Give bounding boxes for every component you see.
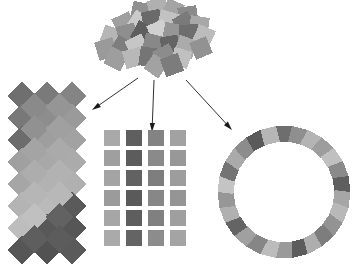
grid-tile (126, 130, 142, 146)
figure-root (0, 0, 360, 274)
grid-tile (148, 230, 164, 246)
grid-tile (148, 150, 164, 166)
grid-tile (104, 130, 120, 146)
grid-tile (170, 150, 186, 166)
grid-tile (126, 150, 142, 166)
grid-tile (126, 230, 142, 246)
grid-tile (126, 190, 142, 206)
grid-tile (104, 230, 120, 246)
grid-tile (104, 210, 120, 226)
grid-tile (170, 230, 186, 246)
diagram-canvas (0, 0, 360, 274)
grid-tile (148, 210, 164, 226)
grid-tile (148, 130, 164, 146)
grid-tile (170, 210, 186, 226)
grid-tile (170, 190, 186, 206)
grid-tile (104, 190, 120, 206)
grid-tile (126, 170, 142, 186)
grid-tile (170, 130, 186, 146)
grid-tile (148, 190, 164, 206)
grid-tile (104, 170, 120, 186)
grid-tile (104, 150, 120, 166)
diamond-lattice (8, 82, 86, 264)
grid-tile (170, 170, 186, 186)
grid-tile (126, 210, 142, 226)
grid-tile (148, 170, 164, 186)
